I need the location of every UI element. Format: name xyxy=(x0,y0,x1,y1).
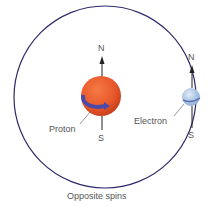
electron-south-label: S xyxy=(188,131,194,140)
diagram-canvas xyxy=(0,0,214,207)
north-arrow-icon xyxy=(100,56,105,64)
proton-north-label: N xyxy=(98,44,105,53)
proton-label: Proton xyxy=(49,125,76,134)
caption: Opposite spins xyxy=(67,192,127,201)
proton xyxy=(80,56,121,130)
proton-south-label: S xyxy=(98,134,104,143)
electron-label: Electron xyxy=(134,117,167,126)
electron xyxy=(174,65,200,128)
electron-north-label: N xyxy=(188,53,195,62)
